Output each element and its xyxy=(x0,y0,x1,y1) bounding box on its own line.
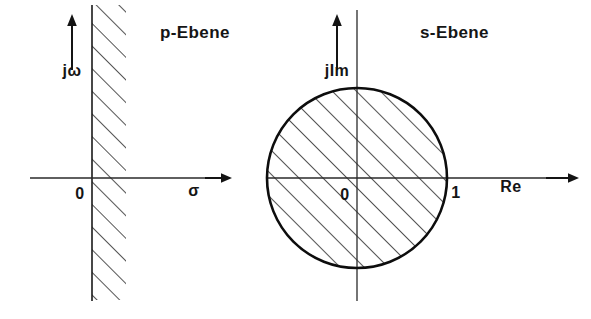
p-plane-real-axis-arrowhead xyxy=(221,173,232,183)
p-plane-imaginary-axis-label: jω xyxy=(62,62,82,79)
s-plane-panel xyxy=(260,10,579,301)
s-plane-imaginary-arrowhead xyxy=(332,14,342,26)
p-plane-title: p-Ebene xyxy=(160,23,230,42)
s-plane-real-axis-label: Re xyxy=(500,178,521,195)
s-plane-real-axis-arrowhead xyxy=(568,173,579,183)
s-plane-title: s-Ebene xyxy=(420,23,489,42)
s-plane-imaginary-axis-label: jIm xyxy=(324,62,349,79)
p-plane-panel xyxy=(30,5,232,301)
s-plane-unit-label: 1 xyxy=(451,184,460,201)
p-plane-imaginary-arrowhead xyxy=(67,14,77,26)
p-plane-origin-label: 0 xyxy=(75,185,84,202)
p-plane-shaded-region xyxy=(92,5,126,300)
figure-root: p-Ebene jω 0 σ s-Ebene jIm 0 1 Re xyxy=(0,0,591,319)
p-plane-real-axis-label: σ xyxy=(188,182,199,199)
s-plane-origin-label: 0 xyxy=(340,186,349,203)
figure-canvas: p-Ebene jω 0 σ s-Ebene jIm 0 1 Re xyxy=(0,0,591,319)
s-plane-shaded-region xyxy=(260,80,460,280)
